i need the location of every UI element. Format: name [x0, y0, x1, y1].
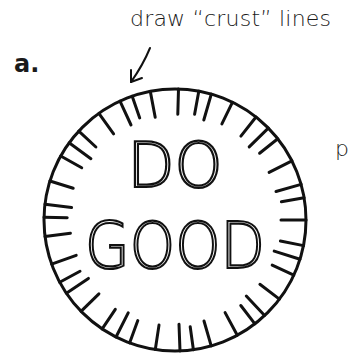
coin-text-line2: GOOD — [85, 209, 265, 283]
crust-line — [178, 89, 179, 114]
crust-line — [69, 143, 91, 159]
coin-text-line1: DO — [128, 129, 223, 202]
crust-line — [120, 101, 131, 125]
crust-line — [272, 265, 294, 275]
arrow-icon — [131, 48, 150, 82]
crust-line — [190, 327, 193, 350]
crust-line — [61, 156, 82, 168]
crust-line — [79, 131, 96, 147]
crust-line — [50, 181, 73, 188]
crust-line — [45, 204, 72, 207]
crust-line — [132, 96, 140, 118]
crust-line — [52, 255, 77, 264]
crust-line — [260, 284, 280, 299]
crust-line — [179, 324, 180, 351]
crust-line — [246, 296, 264, 316]
crust-line — [195, 91, 199, 114]
crust-line — [99, 113, 114, 133]
crust-line — [276, 184, 301, 191]
crust-line — [222, 102, 233, 124]
crust-line — [204, 321, 211, 346]
crust-line — [116, 313, 128, 337]
crust-line — [260, 139, 278, 153]
crust-line — [269, 161, 292, 173]
crust-line — [225, 313, 237, 336]
crust-line — [81, 294, 99, 311]
crust-line — [241, 306, 255, 324]
coin-drawing: DO GOOD — [0, 0, 350, 354]
crust-line — [60, 271, 80, 282]
crust-line — [281, 198, 304, 202]
crust-line — [102, 309, 115, 329]
crust-line — [241, 117, 256, 136]
crust-line — [150, 91, 155, 117]
crust-line — [280, 241, 303, 246]
crust-line — [44, 217, 67, 218]
crust-line — [204, 94, 212, 120]
crust-line — [155, 325, 159, 349]
crust-line — [45, 233, 70, 236]
crust-line — [274, 251, 300, 259]
crust-line — [249, 128, 268, 147]
crust-line — [130, 321, 138, 343]
